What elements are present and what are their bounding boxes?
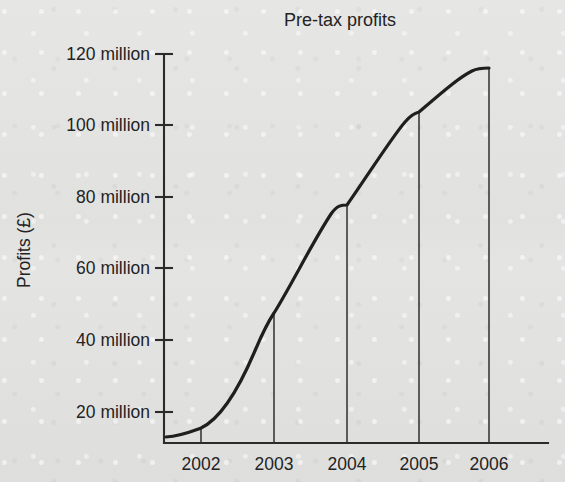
y-tick-label-60: 60 million: [76, 258, 150, 278]
pre-tax-profits-line-chart: Pre-tax profits Profits (£) 120 million …: [0, 0, 565, 482]
x-tick-label-2005: 2005: [400, 454, 439, 474]
y-tick-label-80: 80 million: [76, 187, 150, 207]
x-tick-label-2003: 2003: [255, 454, 294, 474]
y-tick-label-120: 120 million: [66, 44, 150, 64]
x-tick-label-2002: 2002: [182, 454, 221, 474]
y-tick-label-100: 100 million: [66, 115, 150, 135]
y-tick-label-40: 40 million: [76, 330, 150, 350]
chart-figure: Pre-tax profits Profits (£) 120 million …: [0, 0, 565, 482]
x-tick-label-2004: 2004: [328, 454, 367, 474]
chart-title: Pre-tax profits: [284, 10, 396, 30]
y-tick-label-20: 20 million: [76, 402, 150, 422]
profit-curve: [166, 68, 489, 437]
y-axis-title: Profits (£): [14, 212, 34, 288]
x-tick-label-2006: 2006: [470, 454, 509, 474]
